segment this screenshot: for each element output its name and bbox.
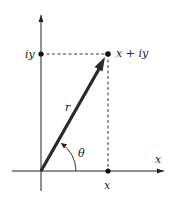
real-axis-label: x <box>155 153 162 166</box>
vector-r <box>41 69 99 171</box>
real-point-dot <box>105 168 110 173</box>
angle-arc <box>62 144 77 172</box>
complex-point-dot <box>105 51 111 57</box>
imaginary-point-dot <box>38 51 43 56</box>
real-point-label: x <box>104 179 111 192</box>
complex-plane-diagram: iy x + iy r θ x x <box>0 0 177 200</box>
magnitude-label: r <box>65 101 71 114</box>
imaginary-point-label: iy <box>25 48 36 61</box>
angle-label: θ <box>78 147 85 160</box>
complex-point-label: x + iy <box>116 47 149 60</box>
vector-arrowhead-icon <box>95 57 106 72</box>
